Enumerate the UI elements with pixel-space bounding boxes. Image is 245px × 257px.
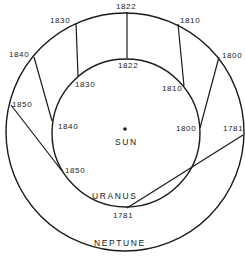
neptune-label-1781: 1781 <box>223 124 243 133</box>
line-1800 <box>200 57 219 128</box>
line-1840 <box>34 57 52 121</box>
neptune-name-label: NEPTUNE <box>94 238 146 248</box>
orbit-diagram: 1822 1810 1830 1800 1840 1850 1781 1822 … <box>0 0 245 257</box>
line-1781 <box>127 135 243 208</box>
uranus-label-1800: 1800 <box>176 124 196 133</box>
uranus-label-1822: 1822 <box>118 61 138 70</box>
uranus-label-1830: 1830 <box>75 80 95 89</box>
uranus-label-1781: 1781 <box>113 211 133 220</box>
neptune-label-1840: 1840 <box>9 50 29 59</box>
sun-label: SUN <box>115 137 138 147</box>
neptune-label-1822: 1822 <box>116 2 136 11</box>
neptune-label-1830: 1830 <box>50 16 70 25</box>
line-1810 <box>178 24 184 86</box>
uranus-label-1840: 1840 <box>58 122 78 131</box>
sun-dot <box>123 127 127 131</box>
uranus-name-label: URANUS <box>92 191 138 201</box>
line-1830 <box>76 23 78 76</box>
neptune-label-1850: 1850 <box>12 100 32 109</box>
uranus-label-1850: 1850 <box>65 166 85 175</box>
neptune-label-1810: 1810 <box>180 16 200 25</box>
neptune-label-1800: 1800 <box>222 51 242 60</box>
uranus-label-1810: 1810 <box>162 84 182 93</box>
